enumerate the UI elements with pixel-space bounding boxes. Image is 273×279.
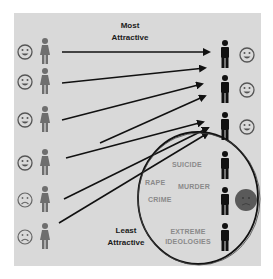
arrow-2 — [62, 68, 205, 83]
least-attractive-line1: Least — [98, 225, 154, 237]
happy-face-icon — [18, 156, 32, 170]
woman-icon — [40, 68, 50, 94]
man-icon — [221, 187, 229, 215]
arrow-3 — [62, 84, 202, 120]
man-icon — [221, 151, 229, 179]
happy-face-icon — [18, 45, 32, 59]
most-attractive-line2: Attractive — [100, 32, 160, 44]
man-icon — [221, 223, 229, 251]
happy-face-icon — [18, 113, 32, 127]
left-column — [18, 38, 50, 249]
arrow-7 — [59, 133, 208, 223]
woman-icon — [40, 106, 50, 132]
term-extreme-ideologies: EXTREME IDEOLOGIES — [162, 227, 214, 247]
woman-icon — [40, 38, 50, 64]
term-crime: CRIME — [148, 195, 172, 205]
man-icon — [221, 40, 229, 68]
man-icon — [221, 75, 229, 103]
happy-face-icon — [240, 120, 254, 134]
angry-dark-face-icon — [235, 189, 257, 211]
happy-face-icon — [18, 75, 32, 89]
arrows — [59, 52, 209, 223]
happy-face-icon — [240, 48, 254, 62]
happy-face-icon — [240, 83, 254, 97]
term-murder: MURDER — [178, 182, 210, 192]
most-attractive-label: Most Attractive — [100, 20, 160, 44]
sad-face-icon — [18, 230, 32, 244]
term-suicide: SUICIDE — [172, 160, 202, 170]
most-attractive-line1: Most — [100, 20, 160, 32]
term-rape: RAPE — [145, 178, 165, 188]
man-icon — [221, 112, 229, 140]
woman-icon — [40, 149, 50, 175]
sad-face-icon — [18, 193, 32, 207]
woman-icon — [40, 186, 50, 212]
least-attractive-label: Least Attractive — [98, 225, 154, 249]
woman-icon — [40, 223, 50, 249]
right-column — [221, 40, 257, 251]
least-attractive-line2: Attractive — [98, 237, 154, 249]
